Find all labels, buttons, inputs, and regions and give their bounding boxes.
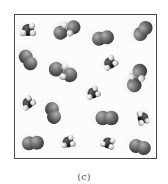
molecule-dark-hydride [12,90,40,117]
molecule-large-pair-h [43,13,84,45]
molecule-dark-hydride [13,20,39,38]
molecule-large-pair-h [39,48,84,89]
molecule-diatomic [81,23,116,50]
small-atom [20,30,26,36]
molecule-diatomic [12,129,46,154]
molecule-dark-hydride [134,103,154,129]
molecule-diatomic [39,90,69,127]
figure-caption: (c) [0,171,168,183]
large-atom [104,111,119,126]
molecule-group [9,13,157,159]
molecule-dark-hydride [77,81,105,104]
molecule-dark-hydride [53,131,79,151]
molecule-dark-hydride [93,130,121,153]
small-atom [30,30,36,36]
small-atom [29,23,35,29]
molecules-layer [0,0,168,184]
molecule-diatomic [9,36,45,75]
molecule-figure: (c) [0,0,168,184]
molecule-diatomic [118,129,155,159]
molecule-dark-hydride [93,50,123,77]
molecule-large-pair-h [113,57,154,102]
molecule-diatomic [86,104,120,127]
molecule-diatomic [120,13,157,52]
